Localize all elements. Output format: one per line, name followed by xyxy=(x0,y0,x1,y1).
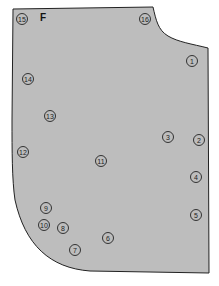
marker-number: 3 xyxy=(166,134,170,141)
marker-number: 5 xyxy=(194,212,198,219)
marker-number: 15 xyxy=(18,16,26,23)
piece-label: F xyxy=(40,12,46,23)
marker-number: 2 xyxy=(197,137,201,144)
marker-number: 16 xyxy=(141,16,149,23)
marker-number: 4 xyxy=(194,174,198,181)
marker-number: 11 xyxy=(97,158,104,165)
marker-number: 6 xyxy=(106,235,110,242)
marker-number: 7 xyxy=(73,247,77,254)
marker-number: 1 xyxy=(190,58,194,65)
marker-number: 9 xyxy=(44,205,48,212)
pattern-diagram: F 12345678910111213141516 xyxy=(0,0,219,286)
marker-number: 13 xyxy=(46,113,54,120)
marker-number: 14 xyxy=(24,76,32,83)
marker-number: 8 xyxy=(61,225,65,232)
marker-number: 12 xyxy=(19,149,27,156)
marker-number: 10 xyxy=(40,222,48,229)
